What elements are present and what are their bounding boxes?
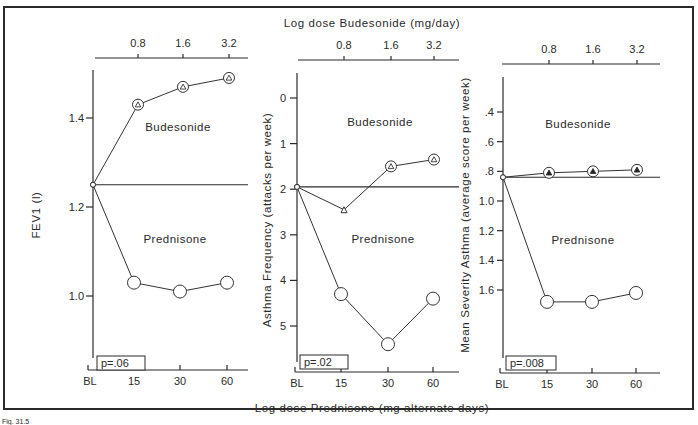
p-value-label: p=.02: [304, 356, 332, 368]
figure-frame: [4, 7, 693, 409]
x-tick-label: BL: [83, 375, 96, 387]
region-label-budesonide: Budesonide: [545, 118, 611, 130]
y-tick-label: 1.4: [479, 254, 494, 266]
top-x-tick-label: 3.2: [426, 39, 441, 51]
y-tick-label: 1.0: [69, 290, 84, 302]
y-tick-label: .4: [485, 106, 494, 118]
region-label-prednisone: Prednisone: [351, 233, 414, 245]
y-tick-label: 1.0: [479, 195, 494, 207]
data-point: [221, 276, 234, 289]
y-tick-label: 0: [280, 92, 286, 104]
y-tick-label: 5: [280, 320, 286, 332]
y-tick-label: 1.2: [69, 201, 84, 213]
x-tick-label: BL: [290, 377, 303, 389]
series-line: [297, 160, 434, 210]
series-budesonide: [295, 154, 440, 213]
y-axis-title: Asthma Frequency (attacks per week): [261, 113, 273, 328]
data-point: [178, 81, 189, 92]
x-tick-label: 30: [586, 378, 598, 390]
data-point: [541, 295, 554, 308]
panel-fev1: 1.01.21.4BL1530600.81.63.2FEV1 (l)Budeso…: [30, 37, 248, 387]
top-x-tick-label: 1.6: [383, 39, 398, 51]
series-line: [503, 170, 637, 177]
top-x-tick-label: 3.2: [221, 37, 236, 49]
top-x-tick-label: 0.8: [130, 37, 145, 49]
panel-mean-severity-asthma: .4.6.81.01.21.41.6BL1530600.81.63.2Mean …: [459, 43, 660, 390]
y-axis-title: Mean Severity Asthma (average score per …: [459, 77, 471, 353]
top-x-tick-label: 1.6: [175, 37, 190, 49]
y-tick-label: 4: [280, 274, 286, 286]
region-label-budesonide: Budesonide: [145, 121, 211, 133]
y-tick-label: 3: [280, 229, 286, 241]
data-point: [630, 286, 643, 299]
data-point: [335, 288, 348, 301]
caption-fragment: Fig. 31.5: [2, 418, 29, 425]
panel-asthma-frequency: 012345BL1530600.81.63.2Asthma Frequency …: [261, 39, 459, 389]
data-point: [224, 72, 235, 83]
top-x-tick-label: 3.2: [629, 43, 644, 55]
x-tick-label: 15: [128, 375, 140, 387]
top-x-tick-label: 0.8: [541, 43, 556, 55]
y-tick-label: 1.2: [479, 225, 494, 237]
y-tick-label: 2: [280, 183, 286, 195]
x-tick-label: 15: [335, 377, 347, 389]
data-point: [427, 292, 440, 305]
region-label-prednisone: Prednisone: [143, 233, 206, 245]
data-point: [133, 99, 144, 110]
x-tick-label: 30: [174, 375, 186, 387]
x-tick-label: BL: [495, 378, 508, 390]
x-tick-label: 30: [382, 377, 394, 389]
series-prednisone: [295, 184, 440, 350]
data-point: [429, 154, 440, 165]
x-tick-label: 15: [541, 378, 553, 390]
data-point: [128, 276, 141, 289]
p-value-label: p=.008: [510, 357, 544, 369]
figure: Log dose Budesonide (mg/day) Log dose Pr…: [0, 0, 698, 425]
p-value-label: p=.06: [101, 357, 129, 369]
top-axis-title: Log dose Budesonide (mg/day): [284, 17, 461, 29]
data-point: [382, 338, 395, 351]
data-point: [386, 161, 397, 172]
y-tick-label: 1.6: [479, 284, 494, 296]
baseline-point: [91, 182, 96, 187]
y-tick-label: .8: [485, 165, 494, 177]
y-tick-label: 1: [280, 138, 286, 150]
data-point: [174, 285, 187, 298]
region-label-prednisone: Prednisone: [551, 234, 614, 246]
y-tick-label: 1.4: [69, 112, 84, 124]
x-tick-label: 60: [221, 375, 233, 387]
baseline-point: [295, 184, 300, 189]
x-tick-label: 60: [630, 378, 642, 390]
y-tick-label: .6: [485, 136, 494, 148]
region-label-budesonide: Budesonide: [347, 116, 413, 128]
series-line: [297, 187, 433, 344]
x-tick-label: 60: [427, 377, 439, 389]
baseline-point: [501, 175, 506, 180]
data-point: [586, 295, 599, 308]
bottom-axis-title: Log dose Prednisone (mg alternate days): [255, 402, 489, 414]
top-x-tick-label: 1.6: [585, 43, 600, 55]
y-axis-title: FEV1 (l): [30, 192, 42, 239]
top-x-tick-label: 0.8: [336, 39, 351, 51]
